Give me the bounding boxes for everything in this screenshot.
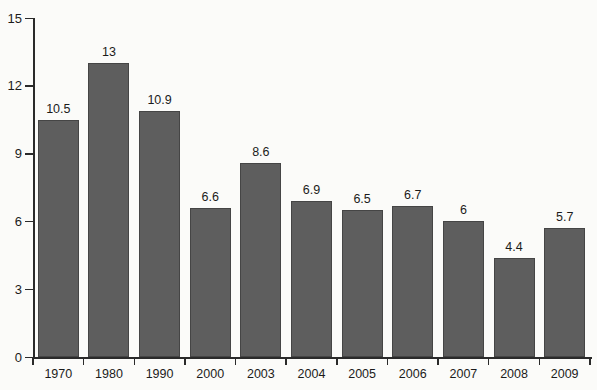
bar-value-label: 4.4 [489,241,540,254]
x-axis-tick [539,358,541,365]
bar [139,111,180,357]
x-axis-tick [589,358,591,365]
bar [291,201,332,357]
bar-value-label: 8.6 [236,146,287,159]
x-axis-tick [32,358,34,365]
x-axis-tick [488,358,490,365]
bar-value-label: 6 [438,204,489,217]
x-tick-label: 2000 [185,368,236,381]
x-tick-label: 2005 [337,368,388,381]
x-tick-label: 2007 [438,368,489,381]
y-tick-label: 3 [0,283,22,296]
bar [494,258,535,357]
y-axis [33,18,35,357]
y-axis-tick [25,85,33,87]
bar [88,63,129,357]
y-axis-tick [25,221,33,223]
bar-value-label: 10.9 [134,94,185,107]
y-tick-label: 0 [0,351,22,364]
y-tick-label: 9 [0,147,22,160]
bar [190,208,231,357]
x-axis-tick [184,358,186,365]
x-tick-label: 1990 [134,368,185,381]
x-tick-label: 2008 [489,368,540,381]
x-tick-label: 2003 [236,368,287,381]
bar-chart: 0369121510.5197013198010.919906.620008.6… [0,0,597,390]
x-axis-tick [336,358,338,365]
x-axis-tick [83,358,85,365]
bar-value-label: 6.5 [337,193,388,206]
y-axis-tick [25,153,33,155]
bar [392,206,433,357]
bar-value-label: 10.5 [33,103,84,116]
x-axis [33,357,592,359]
bar-value-label: 6.9 [286,184,337,197]
x-axis-tick [285,358,287,365]
bar-value-label: 6.6 [185,191,236,204]
x-tick-label: 2004 [286,368,337,381]
x-axis-tick [134,358,136,365]
bar [38,120,79,357]
bar-value-label: 6.7 [387,189,438,202]
x-axis-tick [387,358,389,365]
y-tick-label: 6 [0,215,22,228]
bar [443,221,484,357]
x-tick-label: 1980 [84,368,135,381]
y-axis-tick [25,289,33,291]
bar-value-label: 13 [84,46,135,59]
x-axis-tick [437,358,439,365]
x-tick-label: 2006 [387,368,438,381]
bar [342,210,383,357]
x-axis-tick [235,358,237,365]
y-axis-tick [25,18,33,20]
y-tick-label: 12 [0,79,22,92]
x-tick-label: 2009 [539,368,590,381]
y-tick-label: 15 [0,12,22,25]
bar [544,228,585,357]
bar [240,163,281,357]
bar-value-label: 5.7 [539,211,590,224]
x-tick-label: 1970 [33,368,84,381]
